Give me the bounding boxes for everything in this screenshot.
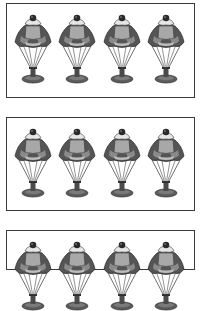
sundae-item [57,241,97,311]
sundae-item [102,241,142,311]
sundae-item [146,128,186,198]
sundae-icon [57,128,97,198]
sundae-item [13,241,53,311]
sundae-icon [146,128,186,198]
sundae-item [57,128,97,198]
sundae-icon [57,14,97,84]
sundae-icon [57,241,97,311]
sundae-icon [146,14,186,84]
sundae-icon [102,241,142,311]
sundae-item [13,14,53,84]
sundae-icon [13,128,53,198]
sundae-icon [146,241,186,311]
sundae-icon [13,14,53,84]
sundae-item [102,14,142,84]
sundae-icon [102,128,142,198]
sundae-icon [102,14,142,84]
sundae-item [102,128,142,198]
sundae-icon [13,241,53,311]
sundae-item [146,241,186,311]
sundae-item [13,128,53,198]
sundae-item [146,14,186,84]
sundae-item [57,14,97,84]
